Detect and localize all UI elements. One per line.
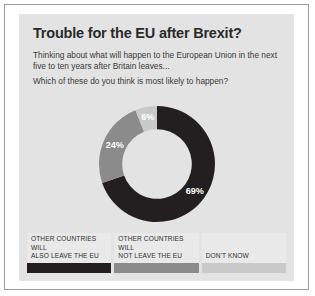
legend-line-2: WILL [31,244,107,252]
legend-label-also-leave: OTHER COUNTRIES WILL ALSO LEAVE THE EU [27,235,111,263]
legend-item-also-leave: OTHER COUNTRIES WILL ALSO LEAVE THE EU [27,233,111,273]
infographic-panel: Trouble for the EU after Brexit? Thinkin… [19,14,294,281]
intro-paragraph: Thinking about what will happen to the E… [33,50,283,72]
donut-chart-svg: 69% 24% 6% [92,100,222,228]
chart-legend: OTHER COUNTRIES WILL ALSO LEAVE THE EU O… [27,233,286,273]
donut-chart: 69% 24% 6% [19,100,294,228]
legend-line-1: OTHER COUNTRIES [31,235,107,243]
donut-label-also-leave: 69% [185,186,203,196]
legend-item-dont-know: DON'T KNOW [202,233,286,273]
legend-swatch-not-leave [114,263,198,273]
legend-label-dont-know: DON'T KNOW [202,252,286,263]
donut-label-dont-know: 6% [141,112,154,122]
legend-line-1: OTHER COUNTRIES [118,235,194,243]
page-title: Trouble for the EU after Brexit? [33,25,242,41]
legend-item-not-leave: OTHER COUNTRIES WILL NOT LEAVE THE EU [114,233,198,273]
legend-swatch-dont-know [202,263,286,273]
infographic-frame: Trouble for the EU after Brexit? Thinkin… [4,4,309,290]
question-paragraph: Which of these do you think is most like… [33,76,283,87]
legend-line-2: WILL [118,244,194,252]
legend-line-3: DON'T KNOW [206,252,282,260]
legend-swatch-also-leave [27,263,111,273]
legend-label-not-leave: OTHER COUNTRIES WILL NOT LEAVE THE EU [114,235,198,263]
legend-line-3: NOT LEAVE THE EU [118,252,194,260]
donut-label-not-leave: 24% [105,140,123,150]
legend-line-3: ALSO LEAVE THE EU [31,252,107,260]
